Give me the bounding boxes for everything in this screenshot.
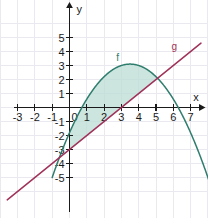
x-tick-label: 5 [153,111,159,123]
y-tick-label: 4 [58,46,64,58]
y-tick-label: 2 [58,74,64,86]
y-tick-label: -5 [55,172,65,184]
y-tick-label: -1 [55,116,65,128]
x-tick-label: 3 [118,111,124,123]
x-tick-label: 7 [188,111,194,123]
x-tick-label: -2 [30,111,40,123]
curve-label-f: f [116,52,119,63]
y-tick-label: -2 [55,130,65,142]
y-tick-label: 5 [58,32,64,44]
x-tick-label: -3 [13,111,23,123]
coordinate-plane: -3-2-101234567 -5-4-3-2-112345 f g x y [0,0,208,218]
graph-figure: -3-2-101234567 -5-4-3-2-112345 f g x y [0,0,208,218]
x-axis-label: x [193,91,199,103]
x-tick-label: 4 [136,111,142,123]
y-tick-label: 3 [58,60,64,72]
x-tick-label: 1 [84,111,90,123]
curve-label-g: g [172,41,178,52]
y-axis-label: y [77,3,83,15]
x-tick-label: 6 [170,111,176,123]
y-tick-label: 1 [58,88,64,100]
